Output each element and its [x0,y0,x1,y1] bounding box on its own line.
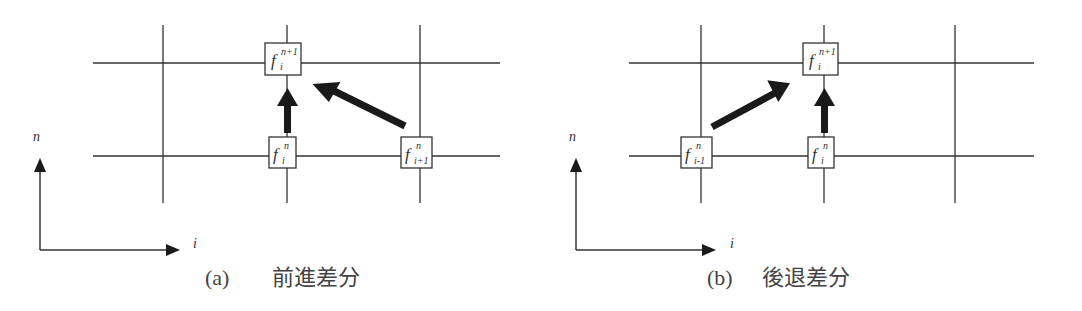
node-subscript: i-1 [694,155,705,166]
axis-arrowhead-up-icon [570,158,582,172]
axis-label-i: i [730,236,734,251]
node-superscript: n+1 [281,46,298,57]
arrow-up-icon [277,88,298,133]
node-f-i-plus-1-n: f n i+1 [401,137,432,168]
node-subscript: i [818,61,821,72]
axis-arrowhead-right-icon [702,244,716,256]
node-f-i-n: f n i [269,137,296,168]
arrow-diagonal-icon [712,80,790,127]
caption-label: (b) [707,265,733,290]
difference-scheme-diagram: f n+1 i f n i f n i+1 [0,0,1082,311]
node-f-i-n: f n i [808,137,834,168]
node-superscript: n [284,140,289,151]
axis-arrowhead-up-icon [34,158,46,172]
node-subscript: i+1 [414,155,429,166]
axis-label-n: n [33,129,40,144]
panel-forward-difference: f n+1 i f n i f n i+1 [33,25,500,290]
axis-arrowhead-right-icon [166,244,180,256]
node-superscript: n [696,140,701,151]
caption-b: (b) 後退差分 [707,265,850,290]
node-subscript: i [280,61,283,72]
node-f-i-n-plus-1: f n+1 i [803,43,838,75]
node-superscript: n [416,140,421,151]
axis-label-n: n [569,129,576,144]
axes: n i [33,129,197,256]
caption-a: (a) 前進差分 [205,265,360,290]
node-f-i-minus-1-n: f n i-1 [681,137,712,168]
node-superscript: n [823,140,828,151]
axis-label-i: i [193,236,197,251]
node-subscript: i [282,155,285,166]
caption-text: 前進差分 [272,265,360,290]
caption-text: 後退差分 [762,265,850,290]
node-f-i-n-plus-1: f n+1 i [265,43,301,75]
caption-label: (a) [205,265,229,290]
arrow-diagonal-icon [313,82,405,126]
arrow-up-icon [814,88,835,133]
node-subscript: i [821,155,824,166]
node-superscript: n+1 [819,46,836,57]
panel-backward-difference: f n+1 i f n i-1 f n i [569,25,1034,290]
